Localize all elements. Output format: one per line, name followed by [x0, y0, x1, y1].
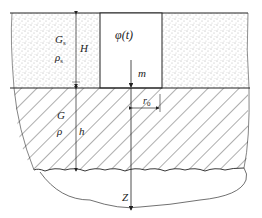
- label-upper-thickness: H: [80, 43, 88, 54]
- label-mass: m: [138, 68, 146, 79]
- label-upper-shear-modulus: Gs: [55, 34, 66, 47]
- label-upper-density: ρs: [55, 52, 63, 65]
- soil-pile-diagram: Gs ρs H φ(t) m G ρ h r0 Z: [0, 0, 262, 218]
- label-lower-density: ρ: [57, 126, 62, 137]
- label-depth-axis: Z: [122, 192, 128, 203]
- halfspace-boundary: [40, 168, 247, 208]
- label-lower-thickness: h: [79, 126, 85, 137]
- label-radius: r0: [143, 96, 150, 108]
- label-lower-shear-modulus: G: [57, 110, 65, 121]
- label-excitation: φ(t): [115, 29, 133, 41]
